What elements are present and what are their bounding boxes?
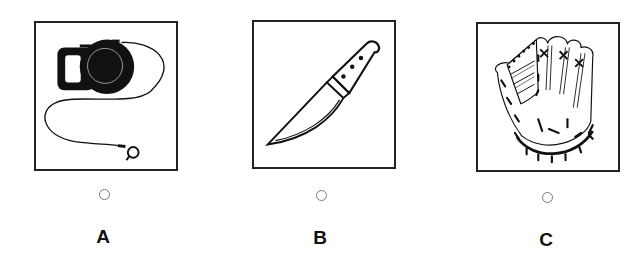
baseball-glove-icon	[478, 24, 618, 170]
option-b-label: B	[305, 227, 335, 249]
knife-icon	[254, 22, 394, 167]
option-c-radio[interactable]	[542, 192, 553, 203]
option-b-image-frame[interactable]	[252, 20, 396, 169]
option-c[interactable]: C	[0, 0, 200, 267]
option-c-label: C	[531, 229, 561, 251]
option-c-image-frame[interactable]	[476, 22, 620, 172]
option-b-radio[interactable]	[316, 190, 327, 201]
